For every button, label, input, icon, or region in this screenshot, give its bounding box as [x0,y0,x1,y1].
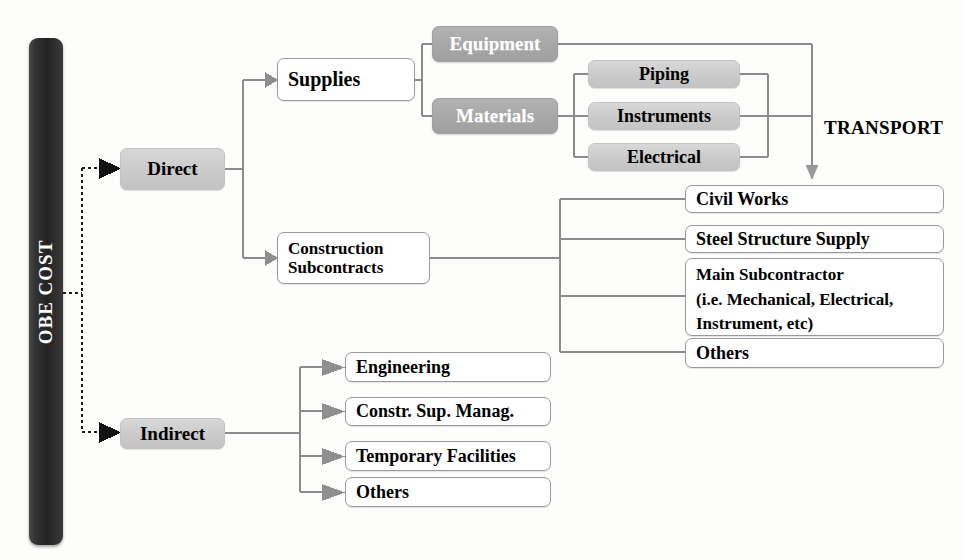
node-indirect[interactable]: Indirect [120,418,225,449]
node-temporary-facilities[interactable]: Temporary Facilities [345,441,551,471]
node-engineering-label: Engineering [356,357,450,377]
node-temporary-facilities-label: Temporary Facilities [356,446,516,466]
node-indirect-others-label: Others [356,482,409,502]
node-piping-label: Piping [639,64,689,84]
node-steel-structure-supply[interactable]: Steel Structure Supply [685,225,944,253]
node-direct[interactable]: Direct [120,148,225,190]
node-instruments-label: Instruments [617,106,711,126]
root-node-obe-cost[interactable]: OBE COST [29,38,63,545]
node-main-subcontractor-label-line1: Main Subcontractor [696,263,943,288]
root-node-label: OBE COST [35,239,57,344]
node-direct-label: Direct [147,158,197,179]
node-subcontract-others-label: Others [696,343,749,363]
node-supplies-label: Supplies [288,68,360,91]
node-construction-subcontracts-label-line2: Subcontracts [288,258,429,277]
node-indirect-others[interactable]: Others [345,477,551,507]
node-steel-structure-supply-label: Steel Structure Supply [696,229,870,249]
node-construction-subcontracts-label-line1: Construction [288,239,429,258]
node-main-subcontractor-label-line3: Instrument, etc) [696,312,943,337]
node-construction-subcontracts[interactable]: Construction Subcontracts [277,232,430,284]
node-materials[interactable]: Materials [432,98,558,134]
node-main-subcontractor[interactable]: Main Subcontractor (i.e. Mechanical, Ele… [685,258,944,336]
node-supplies[interactable]: Supplies [277,58,415,101]
node-subcontract-others[interactable]: Others [685,338,944,368]
node-civil-works-label: Civil Works [696,189,788,209]
node-piping[interactable]: Piping [588,60,740,88]
transport-label: TRANSPORT [824,117,943,139]
node-indirect-label: Indirect [140,423,205,444]
node-civil-works[interactable]: Civil Works [685,185,944,213]
node-equipment[interactable]: Equipment [432,26,558,62]
node-constr-sup-manag-label: Constr. Sup. Manag. [356,401,514,421]
node-electrical-label: Electrical [627,147,701,167]
node-instruments[interactable]: Instruments [588,102,740,130]
node-main-subcontractor-label-line2: (i.e. Mechanical, Electrical, [696,288,943,313]
node-electrical[interactable]: Electrical [588,143,740,171]
node-equipment-label: Equipment [450,33,541,54]
diagram-canvas: OBE COST Direct Indirect Supplies Constr… [0,0,964,560]
node-engineering[interactable]: Engineering [345,352,551,382]
node-materials-label: Materials [456,105,534,126]
node-constr-sup-manag[interactable]: Constr. Sup. Manag. [345,397,551,426]
